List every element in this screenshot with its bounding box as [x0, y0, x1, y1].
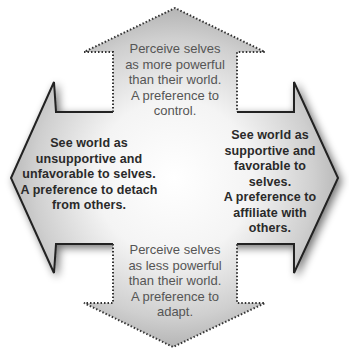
- right-line-3: favorable to selves.: [212, 159, 328, 190]
- up-line-1: Perceive selves: [113, 41, 237, 57]
- left-line-5: from others.: [18, 198, 160, 214]
- up-line-2: as more powerful: [113, 57, 237, 73]
- down-arrow-text: Perceive selves as less powerful than th…: [113, 242, 237, 320]
- up-line-4: A preference to: [113, 88, 237, 104]
- right-arrow-text: See world as supportive and favorable to…: [212, 128, 328, 237]
- left-line-1: See world as: [18, 136, 160, 152]
- down-line-4: A preference to: [113, 289, 237, 305]
- left-line-4: A preference to detach: [18, 183, 160, 199]
- right-line-2: supportive and: [212, 144, 328, 160]
- up-line-3: than their world.: [113, 72, 237, 88]
- left-line-3: unfavorable to selves.: [18, 167, 160, 183]
- down-line-3: than their world.: [113, 273, 237, 289]
- right-line-4: A preference to: [212, 190, 328, 206]
- down-line-5: adapt.: [113, 304, 237, 320]
- right-line-5: affiliate with: [212, 206, 328, 222]
- four-way-arrow-diagram: Perceive selves as more powerful than th…: [0, 0, 349, 364]
- left-arrow-text: See world as unsupportive and unfavorabl…: [18, 136, 160, 214]
- up-arrow-text: Perceive selves as more powerful than th…: [113, 41, 237, 119]
- down-line-2: as less powerful: [113, 258, 237, 274]
- left-line-2: unsupportive and: [18, 152, 160, 168]
- right-line-6: others.: [212, 221, 328, 237]
- up-line-5: control.: [113, 103, 237, 119]
- down-line-1: Perceive selves: [113, 242, 237, 258]
- right-line-1: See world as: [212, 128, 328, 144]
